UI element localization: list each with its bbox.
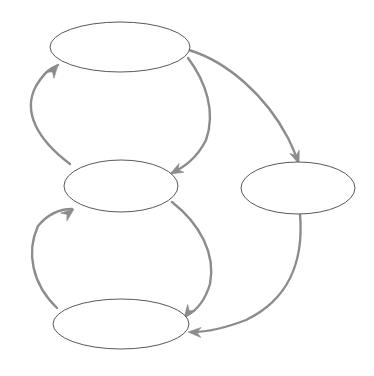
edge-path: [172, 58, 210, 173]
graph-svg: [0, 0, 374, 376]
graph-edge[interactable]: [172, 202, 211, 321]
graph-node[interactable]: [241, 162, 355, 214]
node-ellipse: [64, 160, 178, 212]
node-ellipse: [241, 162, 355, 214]
graph-node[interactable]: [64, 160, 178, 212]
graph-edge[interactable]: [32, 205, 77, 308]
graph-edge[interactable]: [168, 58, 210, 178]
diagram-canvas: [0, 0, 374, 376]
arrowhead-icon: [61, 205, 77, 221]
node-ellipse: [53, 299, 189, 349]
edge-path: [172, 202, 211, 316]
edge-path: [32, 209, 72, 308]
edge-path: [189, 50, 298, 161]
edge-path: [192, 214, 301, 332]
graph-node[interactable]: [53, 299, 189, 349]
edge-path: [31, 65, 70, 164]
graph-edge[interactable]: [189, 50, 304, 166]
node-ellipse: [50, 22, 190, 72]
graph-node[interactable]: [50, 22, 190, 72]
graph-edge[interactable]: [188, 214, 301, 337]
graph-edge[interactable]: [31, 62, 70, 164]
